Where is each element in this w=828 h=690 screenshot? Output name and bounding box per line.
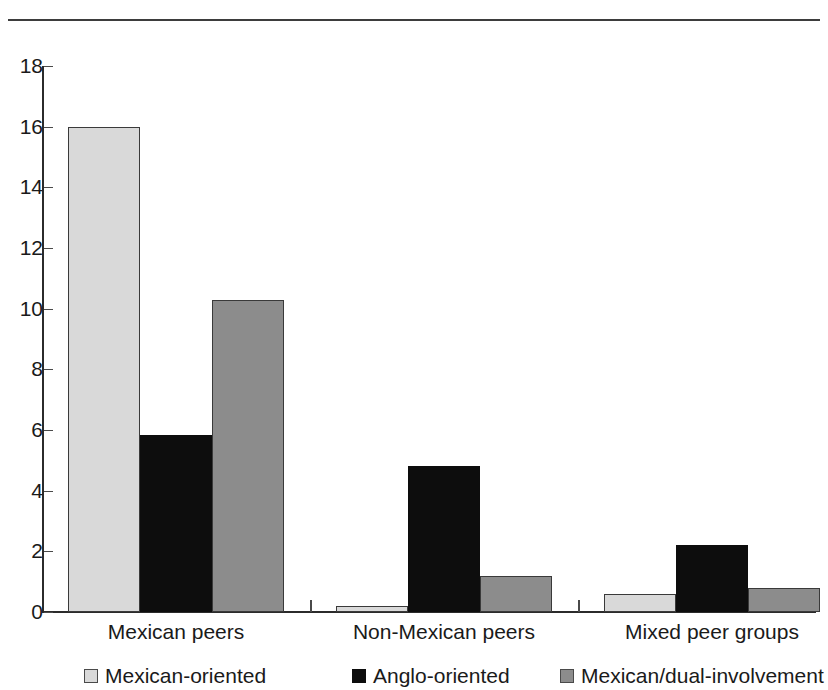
y-axis-tick-label-row: 10 bbox=[0, 309, 53, 310]
x-axis-category-label: Mexican peers bbox=[28, 620, 324, 644]
y-axis-tick-label: 12 bbox=[9, 237, 43, 258]
legend-swatch-icon bbox=[560, 669, 574, 683]
y-axis-tick-label: 14 bbox=[9, 176, 43, 197]
y-axis-tick-label-row: 6 bbox=[0, 430, 53, 431]
bar bbox=[676, 545, 748, 612]
legend-swatch-icon bbox=[352, 669, 366, 683]
x-axis-category-label: Mixed peer groups bbox=[564, 620, 828, 644]
legend-label: Mexican/dual-involvement bbox=[581, 664, 824, 688]
bar bbox=[212, 300, 284, 612]
y-axis-tick-label-row: 14 bbox=[0, 187, 53, 188]
y-axis-tick-label-row: 4 bbox=[0, 491, 53, 492]
bar bbox=[408, 466, 480, 612]
y-axis-tick-label: 8 bbox=[9, 358, 43, 379]
y-axis-tick-label: 6 bbox=[9, 419, 43, 440]
y-axis-tick-label: 4 bbox=[9, 480, 43, 501]
y-axis-tick-label: 0 bbox=[9, 601, 43, 622]
bar bbox=[480, 576, 552, 612]
y-axis-tick-label-row: 8 bbox=[0, 369, 53, 370]
x-axis-tick bbox=[578, 600, 580, 612]
y-axis-tick-label-row: 18 bbox=[0, 66, 53, 67]
chart-legend: Mexican-orientedAnglo-orientedMexican/du… bbox=[0, 664, 828, 690]
y-axis-tick-label: 18 bbox=[9, 55, 43, 76]
bar bbox=[748, 588, 820, 612]
y-axis-tick-label: 2 bbox=[9, 540, 43, 561]
legend-label: Anglo-oriented bbox=[373, 664, 510, 688]
bar bbox=[68, 127, 140, 612]
legend-label: Mexican-oriented bbox=[105, 664, 266, 688]
legend-item[interactable]: Mexican/dual-involvement bbox=[560, 664, 824, 688]
bar bbox=[140, 435, 212, 612]
y-axis-tick-label: 10 bbox=[9, 298, 43, 319]
legend-item[interactable]: Mexican-oriented bbox=[84, 664, 266, 688]
bar bbox=[336, 606, 408, 612]
y-axis-tick-label: 16 bbox=[9, 116, 43, 137]
y-axis-tick-label-row: 12 bbox=[0, 248, 53, 249]
y-axis-tick-label-row: 2 bbox=[0, 551, 53, 552]
y-axis-tick-label-row: 16 bbox=[0, 127, 53, 128]
x-axis-tick bbox=[310, 600, 312, 612]
legend-item[interactable]: Anglo-oriented bbox=[352, 664, 510, 688]
bar bbox=[604, 594, 676, 612]
x-axis-category-label: Non-Mexican peers bbox=[296, 620, 592, 644]
legend-swatch-icon bbox=[84, 669, 98, 683]
bar-chart: 181614121086420 Mexican peersNon-Mexican… bbox=[0, 0, 828, 690]
y-axis-line bbox=[42, 66, 44, 613]
y-axis-tick-label-row: 0 bbox=[0, 612, 53, 613]
